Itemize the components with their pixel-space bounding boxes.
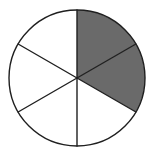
pie-figure-container [0, 0, 151, 157]
pie-chart-svg [0, 0, 151, 157]
